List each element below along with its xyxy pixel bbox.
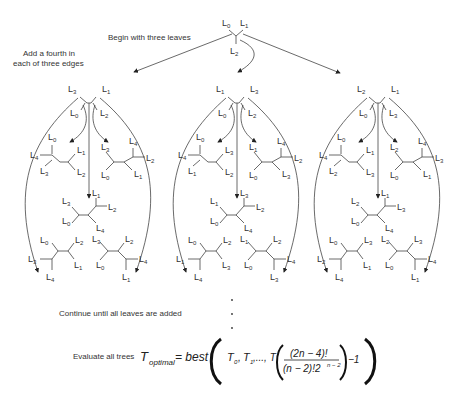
svg-text:L3: L3 (366, 167, 375, 178)
svg-text:L0: L0 (218, 108, 227, 119)
svg-text:L0: L0 (62, 216, 71, 227)
svg-text:L1: L1 (188, 166, 197, 177)
svg-text:L2: L2 (77, 167, 86, 178)
svg-text:L3: L3 (222, 260, 231, 271)
svg-text:L1: L1 (381, 188, 390, 199)
svg-text:L0: L0 (244, 260, 253, 271)
svg-text:L4: L4 (178, 150, 187, 161)
svg-text:L3: L3 (414, 234, 423, 245)
svg-text:L3: L3 (240, 188, 249, 199)
svg-text:(2n − 4)!: (2n − 4)! (290, 348, 328, 359)
svg-text:(n − 2)!2: (n − 2)!2 (283, 363, 321, 374)
svg-text:L4: L4 (385, 223, 394, 234)
svg-text:L0: L0 (337, 132, 346, 143)
svg-text:L3: L3 (364, 235, 373, 246)
svg-text:L2: L2 (329, 166, 338, 177)
level2-tree-3: L2 L1 L0 L3 L0 L4 L2 L1 L3 (314, 84, 444, 283)
annotation-add-fourth-1: Add a fourth in (23, 49, 75, 58)
svg-text:L2: L2 (248, 108, 257, 119)
svg-text:L2: L2 (256, 202, 265, 213)
svg-text:L4: L4 (30, 150, 39, 161)
svg-text:L0: L0 (329, 235, 338, 246)
svg-text:L1: L1 (240, 234, 249, 245)
arrow-to-tree-2 (238, 40, 254, 72)
svg-text:L1: L1 (92, 188, 101, 199)
svg-text:L0: L0 (96, 260, 105, 271)
svg-text:L3: L3 (101, 142, 110, 153)
svg-text:L4: L4 (277, 136, 286, 147)
svg-text:L1: L1 (122, 272, 131, 283)
svg-text:L3: L3 (389, 108, 398, 119)
svg-text:L0: L0 (40, 235, 49, 246)
svg-text:L0: L0 (359, 108, 368, 119)
svg-text:L2: L2 (108, 202, 117, 213)
ellipsis-dots (231, 299, 233, 329)
svg-text:L4: L4 (96, 223, 105, 234)
svg-text:optimal: optimal (149, 358, 175, 367)
svg-text:L2: L2 (294, 153, 303, 164)
svg-text:L3: L3 (28, 254, 37, 265)
svg-text:L2: L2 (357, 84, 366, 95)
svg-text:L1: L1 (134, 169, 143, 180)
svg-text:L1: L1 (366, 145, 375, 156)
level2-tree-2: L1 L3 L0 L2 L0 L4 L1 L3 L2 (173, 84, 303, 283)
optimal-tree-formula: T optimal = best T 0 , T 1 ,..., T (2n −… (140, 339, 375, 384)
svg-text:L0: L0 (249, 170, 258, 181)
svg-text:L0: L0 (48, 132, 57, 143)
svg-text:L0: L0 (210, 216, 219, 227)
svg-text:L0: L0 (196, 132, 205, 143)
svg-text:L1: L1 (249, 142, 258, 153)
svg-text:L1: L1 (411, 272, 420, 283)
subtree: L3 L0 L2 L4 L1 (92, 234, 148, 283)
svg-text:L0: L0 (188, 235, 197, 246)
svg-text:L4: L4 (335, 272, 344, 283)
svg-text:L1: L1 (74, 260, 83, 271)
svg-text:L3: L3 (397, 202, 406, 213)
svg-text:L2: L2 (390, 142, 399, 153)
subtree: L0 L4 L3 L1 L2 (30, 132, 86, 178)
svg-text:,..., T: ,..., T (253, 352, 277, 363)
svg-text:L3: L3 (92, 234, 101, 245)
leaf-label: L2 (230, 46, 239, 57)
svg-text:L2: L2 (273, 234, 282, 245)
svg-text:n − 2: n − 2 (327, 362, 341, 368)
svg-text:L0: L0 (351, 216, 360, 227)
svg-text:L3: L3 (270, 272, 279, 283)
svg-text:L2: L2 (75, 235, 84, 246)
svg-text:L2: L2 (381, 234, 390, 245)
svg-text:L4: L4 (428, 254, 437, 265)
svg-text:L3: L3 (250, 84, 259, 95)
svg-text:L2: L2 (351, 196, 360, 207)
svg-text:L3: L3 (282, 169, 291, 180)
svg-text:L1: L1 (210, 196, 219, 207)
annotation-evaluate: Evaluate all trees (73, 352, 134, 361)
svg-text:L4: L4 (319, 150, 328, 161)
svg-text:L2: L2 (125, 234, 134, 245)
svg-text:,: , (238, 352, 241, 363)
svg-text:L4: L4 (194, 272, 203, 283)
subtree: L3 L0 L4 L2 L1 (101, 136, 155, 181)
svg-text:L1: L1 (363, 260, 372, 271)
svg-text:L4: L4 (139, 254, 148, 265)
annotation-add-fourth-2: each of three edges (13, 59, 84, 68)
svg-text:L2: L2 (100, 108, 109, 119)
svg-text:L1: L1 (77, 145, 86, 156)
svg-text:L2: L2 (317, 254, 326, 265)
svg-text:= best: = best (175, 350, 209, 364)
svg-text:L1: L1 (176, 254, 185, 265)
svg-text:L3: L3 (62, 196, 71, 207)
svg-text:L3: L3 (40, 166, 49, 177)
svg-text:L0: L0 (70, 108, 79, 119)
svg-text:L4: L4 (129, 136, 138, 147)
svg-text:L4: L4 (418, 136, 427, 147)
svg-text:L2: L2 (146, 153, 155, 164)
svg-text:T: T (140, 349, 149, 364)
svg-text:L3: L3 (435, 153, 444, 164)
arrow-to-tree-3 (243, 34, 340, 73)
leaf-label: L0 (222, 18, 231, 29)
svg-text:L4: L4 (287, 254, 296, 265)
annotation-begin: Begin with three leaves (108, 33, 191, 42)
svg-text:L2: L2 (223, 235, 232, 246)
root-tree: L0 L1 L2 (222, 18, 249, 57)
svg-text:L0: L0 (101, 170, 110, 181)
